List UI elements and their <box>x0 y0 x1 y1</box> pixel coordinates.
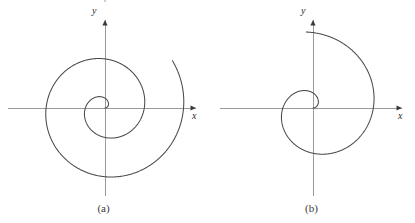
y-axis-label-b: y <box>301 6 305 16</box>
spiral-curve <box>281 32 374 154</box>
y-axis-label-a: y <box>92 6 96 16</box>
spiral-plot-b <box>208 0 415 223</box>
x-axis-label-b: x <box>398 111 402 121</box>
y-axis-arrowhead <box>102 20 107 26</box>
figure-container: y x (a) y x (b) <box>0 0 415 223</box>
spiral-curve <box>46 59 184 177</box>
x-axis-label-a: x <box>192 111 196 121</box>
y-axis-arrowhead <box>310 20 315 26</box>
panel-caption-a: (a) <box>0 203 207 214</box>
panel-a: y x (a) <box>0 0 207 223</box>
panel-caption-b: (b) <box>208 203 415 214</box>
spiral-plot-a <box>0 0 207 223</box>
panel-b: y x (b) <box>208 0 415 223</box>
